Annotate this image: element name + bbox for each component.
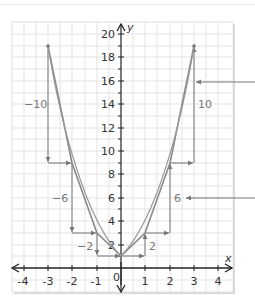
svg-text:-3: -3	[43, 275, 54, 288]
x-axis-label: x	[224, 252, 232, 265]
svg-text:4: 4	[215, 275, 222, 288]
svg-text:16: 16	[101, 75, 115, 88]
label-minus-6: −6	[52, 192, 68, 205]
svg-text:8: 8	[108, 168, 115, 181]
svg-text:6: 6	[108, 192, 115, 205]
label-10: 10	[198, 98, 212, 111]
parabola-chart: x y 0 -4 -3 -2 -1 1 2 3 4 20 18 16 14 12…	[0, 0, 255, 305]
svg-text:18: 18	[101, 51, 115, 64]
svg-text:3: 3	[191, 275, 198, 288]
svg-text:2: 2	[167, 275, 174, 288]
label-minus-10: −10	[24, 98, 47, 111]
svg-text:-2: -2	[67, 275, 78, 288]
origin-label: 0	[113, 271, 120, 284]
svg-text:12: 12	[101, 122, 115, 135]
svg-text:14: 14	[101, 98, 115, 111]
svg-text:-1: -1	[91, 275, 102, 288]
y-axis-label: y	[126, 21, 134, 34]
svg-text:-4: -4	[18, 275, 29, 288]
svg-text:20: 20	[101, 28, 115, 41]
label-minus-2: −2	[77, 240, 93, 253]
svg-text:4: 4	[108, 215, 115, 228]
label-6: 6	[174, 192, 181, 205]
svg-text:1: 1	[142, 275, 149, 288]
label-2: 2	[149, 240, 156, 253]
svg-text:10: 10	[101, 145, 115, 158]
